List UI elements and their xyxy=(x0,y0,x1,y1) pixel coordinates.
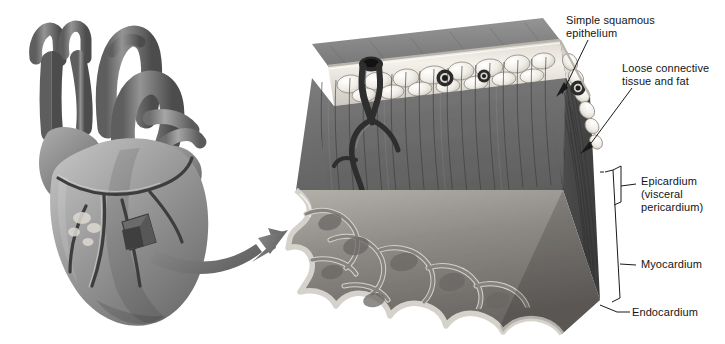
label-epicardium: Epicardium (visceral pericardium) xyxy=(641,175,703,214)
heart-wall-tissue-block xyxy=(288,18,605,334)
label-loose-connective-tissue-and-fat: Loose connective tissue and fat xyxy=(622,62,709,88)
label-endocardium: Endocardium xyxy=(632,306,698,319)
label-simple-squamous-epithelium: Simple squamous epithelium xyxy=(566,14,655,40)
heart-wall-figure xyxy=(0,0,725,344)
label-myocardium: Myocardium xyxy=(641,258,702,271)
